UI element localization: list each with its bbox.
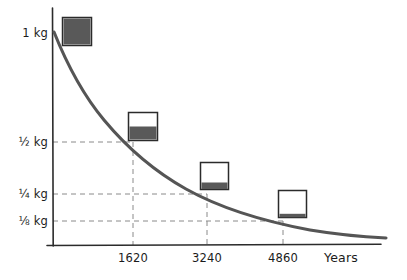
- mass-block-eighth-kg-fill: [280, 214, 306, 217]
- mass-block-quarter-kg-fill: [202, 183, 228, 190]
- x-tick-label-3240: 3240: [184, 251, 230, 265]
- x-tick-label-4860: 4860: [260, 251, 306, 265]
- mass-block-1kg-fill: [64, 19, 91, 45]
- decay-chart: 1 kg ½ kg ¼ kg ⅛ kg 1620 3240 4860 Years: [0, 0, 407, 280]
- grid-lines: [53, 142, 283, 245]
- decay-curve: [54, 32, 386, 238]
- y-tick-label-eighth-kg: ⅛ kg: [0, 214, 48, 228]
- y-tick-label-quarter-kg: ¼ kg: [0, 187, 48, 201]
- x-axis-title: Years: [324, 250, 358, 265]
- mass-block-half-kg-fill: [130, 127, 157, 140]
- mass-block-quarter-kg: [201, 163, 229, 190]
- mass-block-half-kg: [129, 113, 158, 141]
- mass-block-eighth-kg: [279, 191, 307, 218]
- y-tick-label-1kg: 1 kg: [6, 26, 48, 40]
- x-tick-label-1620: 1620: [110, 251, 156, 265]
- chart-axes: [47, 8, 381, 246]
- chart-plot-area: [0, 0, 407, 280]
- y-axis: [53, 8, 54, 246]
- mass-block-1kg: [63, 18, 92, 46]
- x-axis: [47, 244, 381, 245]
- y-tick-label-half-kg: ½ kg: [0, 135, 48, 149]
